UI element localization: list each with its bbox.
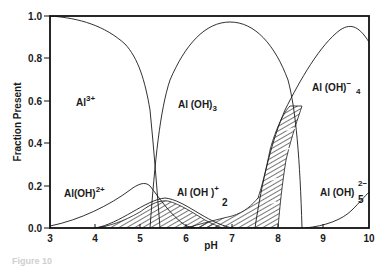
hatched-regions — [95, 106, 302, 228]
label-aloh3: Al (OH)3 — [178, 99, 217, 113]
x-tick-label: 10 — [363, 233, 375, 244]
y-tick-label: 0.4 — [28, 138, 42, 149]
label-aloh4: Al (OH)− — [312, 79, 351, 93]
label-aloh2plus: Al(OH)2+ — [64, 185, 105, 199]
figure-caption: Figure 10 — [12, 256, 52, 266]
y-tick-label: 0.2 — [28, 181, 42, 192]
label-aloh5-sub: 5 — [358, 194, 364, 205]
species-labels: Al3+ Al (OH)3 Al (OH)− 4 Al(OH)2+ Al (OH… — [64, 79, 367, 208]
label-aloh4-sub: 4 — [356, 87, 361, 96]
speciation-chart: 1.0 0.8 0.6 0.4 0.2 0.0 Fraction Present… — [0, 0, 387, 266]
y-tick-label: 0.0 — [28, 223, 42, 234]
label-aloh2-sub: 2 — [222, 197, 228, 208]
x-tick-label: 6 — [183, 233, 189, 244]
x-axis-title: pH — [204, 240, 217, 251]
label-aloh5: Al (OH) — [320, 187, 354, 198]
x-tick-label: 5 — [137, 233, 143, 244]
y-tick-label: 0.6 — [28, 96, 42, 107]
y-axis-title: Fraction Present — [12, 82, 23, 162]
y-axis: 1.0 0.8 0.6 0.4 0.2 0.0 Fraction Present — [12, 11, 50, 234]
x-tick-label: 9 — [320, 233, 326, 244]
hatched-region-2 — [186, 106, 302, 228]
x-tick-label: 8 — [275, 233, 281, 244]
x-tick-label: 3 — [47, 233, 53, 244]
label-aloh2: Al (OH )+ — [177, 184, 219, 198]
y-tick-label: 0.8 — [28, 53, 42, 64]
label-al3: Al3+ — [76, 94, 95, 108]
x-tick-label: 4 — [92, 233, 98, 244]
label-aloh5-sup: 2− — [358, 179, 367, 188]
x-tick-label: 7 — [229, 233, 235, 244]
y-tick-label: 1.0 — [28, 11, 42, 22]
